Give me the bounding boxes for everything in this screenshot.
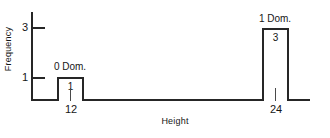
bar-value-label-24: 3: [264, 32, 287, 44]
x-axis-tick-12: [70, 88, 71, 101]
y-axis-tick-label-3: 3: [14, 22, 28, 33]
y-axis-tick-label-1: 1: [14, 72, 28, 83]
histogram-chart: 3 1 Frequency Height 0 Dom. 1 12 1 Dom. …: [0, 0, 330, 138]
bar-top-label-12: 0 Dom.: [35, 61, 105, 72]
y-axis-line: [31, 12, 33, 101]
x-axis-tick-24: [275, 88, 276, 101]
x-axis-title: Height: [145, 116, 205, 126]
x-axis-category-label-24: 24: [246, 103, 306, 115]
y-axis-title: Frequency: [3, 19, 13, 79]
y-axis-tick-1: [33, 77, 45, 79]
bar-top-label-24: 1 Dom.: [240, 13, 310, 24]
y-axis-tick-3: [33, 27, 45, 29]
x-axis-category-label-12: 12: [41, 103, 101, 115]
